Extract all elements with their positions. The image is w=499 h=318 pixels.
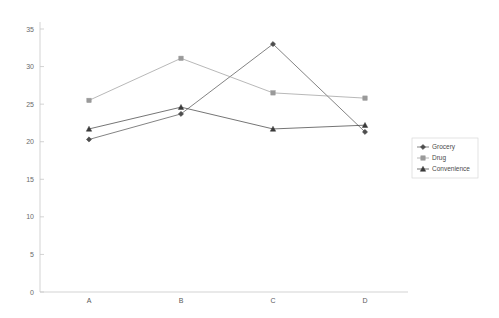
plot-series-group <box>86 41 367 142</box>
series-line <box>89 44 365 139</box>
y-tick-label: 20 <box>26 138 34 145</box>
data-point-marker-square <box>271 91 275 95</box>
y-tick-label: 35 <box>26 26 34 33</box>
data-point-marker-diamond <box>86 137 91 142</box>
legend-label-grocery: Grocery <box>432 143 456 151</box>
data-point-marker-triangle <box>178 104 183 109</box>
chart-legend: GroceryDrugConvenience <box>412 138 478 178</box>
line-chart: 05101520253035 ABCD GroceryDrugConvenien… <box>0 0 499 318</box>
data-point-marker-square <box>421 156 425 160</box>
y-tick-label: 0 <box>30 289 34 296</box>
chart-canvas: 05101520253035 ABCD GroceryDrugConvenien… <box>0 0 499 318</box>
y-axis-ticks: 05101520253035 <box>26 26 44 296</box>
x-axis-labels: ABCD <box>87 297 368 304</box>
y-axis: 05101520253035 <box>26 22 44 296</box>
y-tick-label: 10 <box>26 213 34 220</box>
data-point-marker-square <box>87 98 91 102</box>
y-tick-label: 30 <box>26 63 34 70</box>
x-axis-label: B <box>179 297 184 304</box>
data-point-marker-square <box>363 96 367 100</box>
x-axis: ABCD <box>40 292 408 304</box>
data-point-marker-square <box>179 56 183 60</box>
legend-label-convenience: Convenience <box>432 165 470 172</box>
x-axis-label: D <box>362 297 367 304</box>
series-line <box>89 107 365 129</box>
series-convenience <box>86 104 367 131</box>
x-axis-label: A <box>87 297 92 304</box>
x-axis-label: C <box>270 297 275 304</box>
y-tick-label: 25 <box>26 101 34 108</box>
y-tick-label: 5 <box>30 251 34 258</box>
y-tick-label: 15 <box>26 176 34 183</box>
legend-label-drug: Drug <box>432 154 446 162</box>
